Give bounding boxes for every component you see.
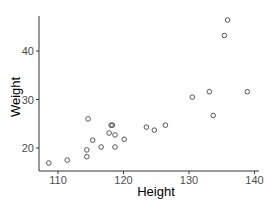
data-point <box>90 138 95 143</box>
y-axis-title: Weight <box>8 77 23 118</box>
data-point <box>144 125 149 130</box>
data-point <box>122 137 127 142</box>
data-points <box>47 18 250 166</box>
data-point <box>113 133 118 138</box>
data-point <box>107 131 112 136</box>
data-point <box>99 145 104 150</box>
data-point <box>85 148 90 153</box>
x-tick-label: 130 <box>180 174 198 186</box>
data-point <box>245 89 250 94</box>
data-point <box>211 113 216 118</box>
x-tick-label: 140 <box>245 174 263 186</box>
y-tick-label: 20 <box>22 142 34 154</box>
data-point <box>113 145 118 150</box>
data-point <box>85 154 90 159</box>
axes <box>39 16 259 171</box>
x-axis-title: Height <box>137 184 175 199</box>
data-point <box>190 95 195 100</box>
data-point <box>152 128 157 133</box>
x-tick-label: 110 <box>49 174 67 186</box>
y-tick-label: 40 <box>22 45 34 57</box>
data-point <box>222 33 227 38</box>
scatter-chart: 110120130140 203040 Height Weight <box>0 0 269 204</box>
data-point <box>65 158 70 163</box>
data-point <box>47 161 52 166</box>
data-point <box>225 18 230 23</box>
y-tick-label: 30 <box>22 94 34 106</box>
y-axis-ticks: 203040 <box>22 45 39 154</box>
x-tick-label: 120 <box>114 174 132 186</box>
data-point <box>163 123 168 128</box>
data-point <box>207 89 212 94</box>
data-point <box>86 117 91 122</box>
